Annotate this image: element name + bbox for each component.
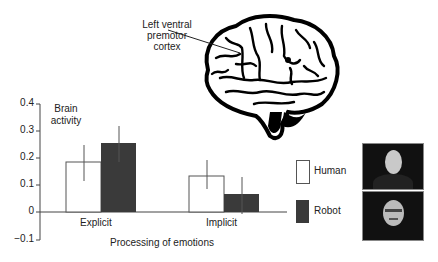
legend-robot-label: Robot bbox=[314, 205, 341, 216]
y-tick-0.1: 0.1 bbox=[14, 178, 34, 189]
legend-human-label: Human bbox=[314, 165, 346, 176]
x-axis-label: Processing of emotions bbox=[110, 237, 214, 248]
human-face-photo bbox=[362, 143, 424, 190]
y-tick-0.2: 0.2 bbox=[14, 151, 34, 162]
legend-human-swatch bbox=[296, 160, 310, 184]
y-tick-0.4: 0.4 bbox=[14, 97, 34, 108]
category-label-implicit: Implicit bbox=[206, 217, 237, 228]
y-tick-0.3: 0.3 bbox=[14, 124, 34, 135]
y-tick-0: 0 bbox=[14, 205, 34, 216]
robot-face-photo bbox=[362, 191, 424, 241]
y-axis-label: Brain activity bbox=[48, 103, 84, 127]
legend-robot-swatch bbox=[296, 200, 309, 223]
category-label-explicit: Explicit bbox=[80, 217, 112, 228]
y-tick-minus-0.1: −0.1 bbox=[4, 233, 34, 244]
